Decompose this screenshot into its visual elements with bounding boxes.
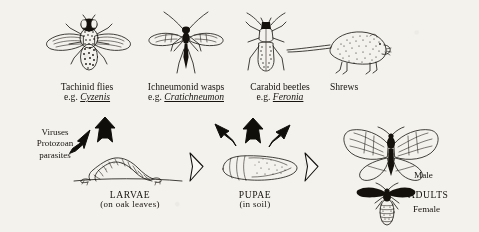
tachinid-genus: Cyzenis <box>80 91 110 102</box>
tachinid-flies-caption: Tachinid flies e.g. Cyzenis <box>33 82 141 103</box>
shrew-icon <box>286 27 392 77</box>
shrews-caption: Shrews <box>314 82 374 92</box>
tachinid-fly-icon <box>43 14 131 76</box>
male-label: Male <box>414 171 474 181</box>
attack-arrow-tachinid-to-larvae <box>93 116 117 144</box>
carabid-eg-prefix: e.g. <box>257 91 273 102</box>
larvae-caption: LARVAE (on oak leaves) <box>68 190 192 210</box>
caterpillar-illustration <box>72 148 184 186</box>
attack-arrow-ichneumonid-to-pupae <box>213 122 237 148</box>
ichneumonid-genus: Cratichneumon <box>164 91 224 102</box>
female-label: Female <box>413 205 473 215</box>
ichneumonid-eg-prefix: e.g. <box>148 91 164 102</box>
pupa-icon <box>219 154 301 184</box>
attack-arrow-shrew-to-pupae <box>268 123 292 149</box>
pupae-caption: PUPAE (in soil) <box>203 190 307 210</box>
pupa-illustration <box>219 154 301 184</box>
arrow-right-hollow-icon <box>303 150 321 184</box>
larvae-detail: (on oak leaves) <box>68 200 192 210</box>
tachinid-eg-prefix: e.g. <box>64 91 80 102</box>
arrow-right-hollow-icon <box>188 150 206 184</box>
female-label-wrap: Female <box>413 205 473 215</box>
carabid-genus: Feronia <box>273 91 304 102</box>
pupae-detail: (in soil) <box>203 200 307 210</box>
arrow-up-right-solid-icon <box>268 123 292 149</box>
caterpillar-icon <box>72 148 184 186</box>
adults-label: ADULTS <box>408 190 476 200</box>
arrow-up-solid-icon <box>93 116 117 144</box>
attack-arrow-carabid-to-pupae <box>241 117 265 145</box>
ichneumonid-wasp-icon <box>146 11 226 77</box>
ichneumonid-wasps-caption: Ichneumonid wasps e.g. Cratichneumon <box>127 82 245 103</box>
ichneumonid-wasp-illustration <box>146 11 226 77</box>
life-cycle-diagram: Tachinid flies e.g. Cyzenis <box>0 0 479 232</box>
cycle-arrow-larvae-to-pupae <box>188 150 206 184</box>
arrow-up-left-solid-icon <box>213 122 237 148</box>
male-label-wrap: Male <box>414 171 474 181</box>
adults-label-wrap: ADULTS <box>408 190 476 200</box>
shrew-illustration <box>286 27 392 77</box>
arrow-up-solid-icon <box>241 117 265 145</box>
shrews-common-name: Shrews <box>314 82 374 92</box>
cycle-arrow-pupae-to-adults <box>303 150 321 184</box>
tachinid-fly-illustration <box>43 14 131 76</box>
